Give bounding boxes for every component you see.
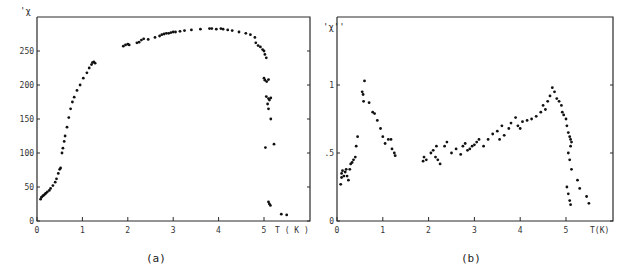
data-point (269, 204, 272, 207)
data-point (570, 141, 573, 144)
data-point (267, 78, 270, 81)
data-point (439, 163, 442, 166)
data-point (285, 214, 288, 217)
chart-b-y-label: 'χ'' (323, 22, 345, 32)
data-point (351, 161, 354, 164)
data-point (254, 41, 257, 44)
data-point (280, 213, 283, 216)
data-point (142, 37, 145, 40)
data-point (450, 152, 453, 155)
data-point (94, 62, 97, 65)
data-point (514, 116, 517, 119)
data-point (249, 33, 252, 36)
data-point (468, 148, 471, 151)
x-tick-label: 0 (35, 226, 40, 235)
data-point (210, 27, 213, 30)
data-point (544, 108, 547, 111)
data-point (147, 38, 150, 41)
data-point (443, 145, 446, 148)
data-point (264, 146, 267, 149)
data-point (347, 179, 350, 182)
data-point (521, 120, 524, 123)
data-point (254, 36, 257, 39)
x-tick-label: 1 (80, 226, 85, 235)
data-point (269, 97, 272, 100)
chart-b-x-label: T(K) (590, 226, 609, 235)
data-point (473, 143, 476, 146)
data-point (464, 142, 467, 145)
data-point (496, 130, 499, 133)
data-point (391, 148, 394, 151)
chart-a-frame (37, 17, 310, 221)
data-point (455, 148, 458, 151)
data-point (390, 138, 393, 141)
chart-b-caption: (b) (461, 252, 481, 265)
data-point (567, 152, 570, 155)
data-point (526, 119, 529, 122)
data-point (501, 124, 504, 127)
chart-a: 012345 050100150200250 'χ T ( K ) (a) (20, 6, 310, 265)
data-point (190, 29, 193, 32)
data-point (57, 172, 60, 175)
data-point (542, 104, 545, 107)
data-point (387, 138, 390, 141)
chart-a-x-label: T ( K ) (275, 226, 309, 235)
data-point (503, 134, 506, 137)
data-point (491, 133, 494, 136)
data-point (436, 158, 439, 161)
data-point (588, 202, 591, 205)
data-point (422, 160, 425, 163)
data-point (459, 153, 462, 156)
x-tick-label: 2 (426, 226, 431, 235)
data-point (384, 142, 387, 145)
chart-b-data-points (339, 80, 590, 207)
data-point (362, 100, 365, 103)
data-point (507, 127, 510, 130)
data-point (354, 156, 357, 159)
data-point (519, 127, 522, 130)
data-point (339, 183, 342, 186)
data-point (551, 86, 554, 89)
data-point (376, 119, 379, 122)
data-point (346, 175, 349, 178)
data-point (430, 152, 433, 155)
data-point (259, 46, 262, 49)
data-point (585, 195, 588, 198)
data-point (66, 126, 69, 129)
y-tick-label: 200 (20, 81, 35, 90)
data-point (423, 156, 426, 159)
data-point (482, 145, 485, 148)
data-point (379, 127, 382, 130)
data-point (576, 179, 579, 182)
x-tick-label: 5 (262, 226, 267, 235)
chart-a-y-axis: 050100150200250 (20, 47, 310, 226)
data-point (562, 114, 565, 117)
data-point (568, 135, 571, 138)
data-point (264, 53, 267, 56)
chart-b-frame (337, 17, 613, 221)
data-point (71, 101, 74, 104)
data-point (265, 95, 268, 98)
figure-canvas: 012345 050100150200250 'χ T ( K ) (a) 01… (0, 0, 632, 273)
data-point (570, 168, 573, 171)
data-point (510, 122, 513, 125)
data-point (343, 175, 346, 178)
data-point (267, 107, 270, 110)
y-tick-label: 250 (20, 47, 35, 56)
data-point (425, 158, 428, 161)
x-tick-label: 4 (518, 226, 523, 235)
y-tick-label: 50 (24, 183, 34, 192)
data-point (361, 90, 364, 93)
data-point (560, 104, 563, 107)
data-point (362, 93, 365, 96)
data-point (138, 41, 141, 44)
data-point (546, 100, 549, 103)
data-point (49, 187, 52, 190)
y-tick-label: 150 (20, 115, 35, 124)
chart-a-data-points (39, 27, 288, 216)
data-point (549, 95, 552, 98)
chart-a-caption: (a) (146, 252, 166, 265)
data-point (356, 135, 359, 138)
data-point (69, 107, 72, 110)
data-point (535, 115, 538, 118)
